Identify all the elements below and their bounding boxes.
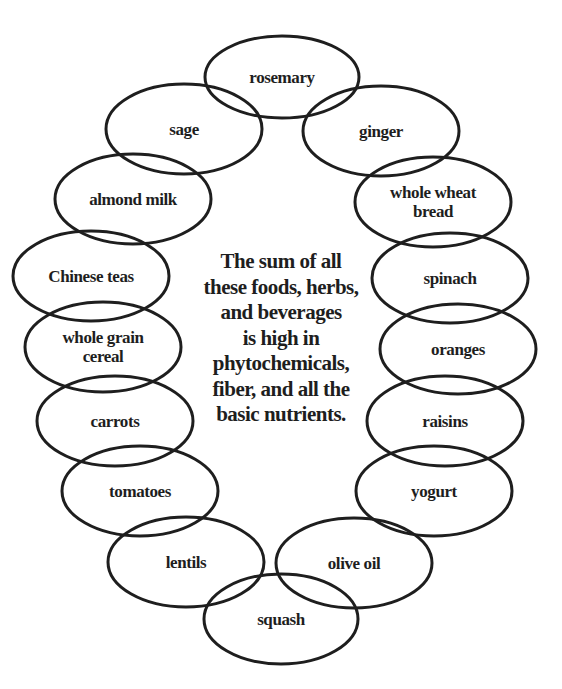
item-label: tomatoes xyxy=(109,482,171,501)
item-label: spinach xyxy=(424,269,477,288)
item-label: almond milk xyxy=(89,190,177,209)
item-label: lentils xyxy=(166,553,207,572)
item-label: sage xyxy=(169,120,199,139)
item-label: oranges xyxy=(431,340,485,359)
food-ellipse-diagram: rosemarysagegingeralmond milkwhole wheat… xyxy=(0,0,562,689)
item-label: rosemary xyxy=(249,68,314,87)
item-label: ginger xyxy=(359,122,403,141)
item-label: raisins xyxy=(422,412,467,431)
center-summary-text: The sum of all these foods, herbs, and b… xyxy=(186,249,376,428)
item-label: carrots xyxy=(91,412,140,431)
item-label: olive oil xyxy=(328,554,381,573)
item-label: yogurt xyxy=(411,482,457,501)
item-label: Chinese teas xyxy=(48,267,133,286)
item-label: whole wheat bread xyxy=(390,183,476,221)
item-label: whole grain cereal xyxy=(62,328,143,366)
item-label: squash xyxy=(257,610,305,629)
